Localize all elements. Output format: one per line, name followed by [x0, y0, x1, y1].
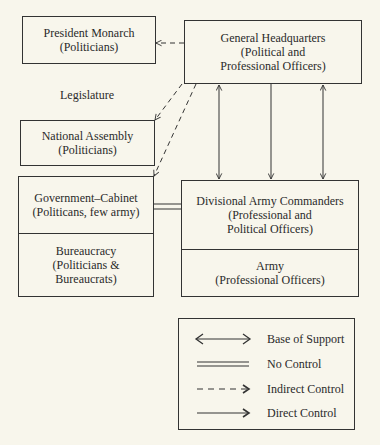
army-subtitle: (Professional Officers) — [215, 273, 324, 287]
legend: Base of Support No Control Indirect Cont… — [178, 318, 355, 430]
bureaucracy-node: Bureaucracy (Politicians & Bureaucrats) — [18, 233, 154, 297]
assembly-title: National Assembly — [42, 129, 134, 143]
ghq-line2: (Political and — [241, 45, 305, 59]
assembly-subtitle: (Politicians) — [58, 143, 117, 157]
president-subtitle: (Politicians) — [60, 40, 119, 54]
bureaucracy-line3: Bureaucrats) — [55, 272, 116, 286]
general-headquarters-node: General Headquarters (Political and Prof… — [184, 20, 362, 84]
legend-label: Direct Control — [267, 405, 337, 421]
indirect-arrow-ghq-assembly — [155, 84, 182, 120]
legislature-label: Legislature — [60, 88, 114, 102]
divisional-line2: (Professional and — [228, 208, 312, 222]
legend-label: No Control — [267, 356, 321, 372]
double-headed-arrow-icon — [191, 331, 255, 347]
solid-arrow-icon — [191, 405, 255, 421]
national-assembly-node: National Assembly (Politicians) — [20, 120, 155, 166]
divisional-army-commanders-node: Divisional Army Commanders (Professional… — [181, 180, 359, 250]
divisional-title: Divisional Army Commanders — [196, 194, 343, 208]
cabinet-subtitle: (Politicans, few army) — [33, 205, 140, 219]
bureaucracy-title: Bureaucracy — [56, 244, 117, 258]
dashed-arrow-icon — [191, 381, 255, 397]
president-monarch-node: President Monarch (Politicians) — [22, 16, 156, 64]
government-cabinet-node: Government–Cabinet (Politicans, few army… — [18, 176, 154, 234]
army-title: Army — [256, 259, 284, 273]
legend-item-no-control: No Control — [179, 356, 354, 372]
legend-item-base-of-support: Base of Support — [179, 331, 354, 347]
double-line-icon — [191, 356, 255, 372]
ghq-title: General Headquarters — [221, 31, 326, 45]
cabinet-title: Government–Cabinet — [34, 191, 137, 205]
legend-item-indirect-control: Indirect Control — [179, 381, 354, 397]
bureaucracy-line2: (Politicians & — [53, 258, 120, 272]
ghq-line3: Professional Officers) — [220, 59, 325, 73]
president-title: President Monarch — [44, 26, 135, 40]
army-node: Army (Professional Officers) — [181, 249, 359, 297]
legend-label: Indirect Control — [267, 381, 344, 397]
indirect-arrow-ghq-cabinet — [154, 84, 196, 176]
legend-label: Base of Support — [267, 331, 344, 347]
legend-item-direct-control: Direct Control — [179, 405, 354, 421]
divisional-line3: Political Officers) — [227, 222, 313, 236]
